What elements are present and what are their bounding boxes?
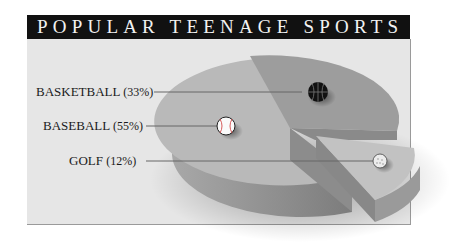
legend-golf: GOLF (12%)	[69, 153, 136, 169]
legend-basketball: BASKETBALL (33%)	[36, 84, 153, 100]
legend-baseball: BASEBALL (55%)	[43, 118, 143, 134]
